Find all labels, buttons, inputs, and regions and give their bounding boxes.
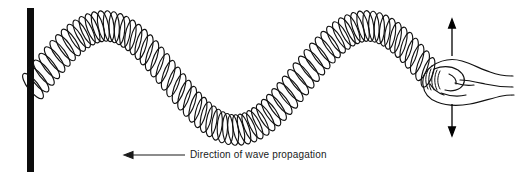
spring-coil — [132, 28, 150, 61]
spring-coil — [258, 97, 284, 129]
finger-crease-3 — [441, 93, 466, 96]
spring-coil — [153, 52, 172, 85]
spring-coil — [306, 40, 333, 71]
spring-coil — [47, 38, 74, 69]
spring-coil — [295, 53, 322, 84]
spring-coil — [402, 37, 421, 70]
spring-coil — [169, 72, 188, 105]
spring-coil — [175, 79, 194, 112]
hand-top-outline — [432, 60, 513, 76]
fixed-support-post — [27, 8, 34, 172]
spring-coil — [158, 59, 178, 92]
hand-illustration — [423, 60, 514, 106]
spring-coil — [164, 66, 184, 99]
spring-coil — [58, 27, 84, 59]
motion-arrow-down-head — [449, 127, 456, 136]
spring-coil — [137, 34, 155, 67]
spring-coil — [181, 85, 200, 118]
spring-coil — [143, 39, 162, 72]
spring-coil — [397, 31, 415, 64]
spring-coil — [408, 43, 427, 76]
propagation-caption: Direction of wave propagation — [190, 149, 327, 161]
propagation-arrow-head — [124, 152, 133, 159]
knuckle-crease-2 — [455, 83, 474, 85]
spring-coil — [335, 16, 358, 48]
spring-coil — [413, 49, 432, 82]
spring-coil — [301, 47, 328, 78]
wave-propagation-arrow — [124, 152, 185, 159]
spring-coil — [148, 46, 167, 79]
transverse-wave-figure: Direction of wave propagation — [0, 0, 515, 187]
spring-coil — [52, 32, 78, 63]
gripped-coil-shading — [426, 69, 440, 90]
motion-arrow-up-head — [449, 19, 456, 28]
spring-coil — [248, 105, 272, 137]
spring-coil — [269, 86, 296, 117]
spring-coil — [318, 29, 344, 61]
spring-coil — [41, 44, 68, 75]
coiled-spring — [19, 10, 437, 146]
spring-coil — [70, 18, 94, 50]
spring-coil — [186, 91, 204, 124]
spring-coil — [274, 80, 301, 111]
spring-coil — [36, 51, 63, 82]
spring-coil — [263, 92, 289, 123]
spring-coil — [312, 34, 338, 65]
spring-coil — [279, 73, 306, 104]
spring-coil — [243, 109, 266, 141]
